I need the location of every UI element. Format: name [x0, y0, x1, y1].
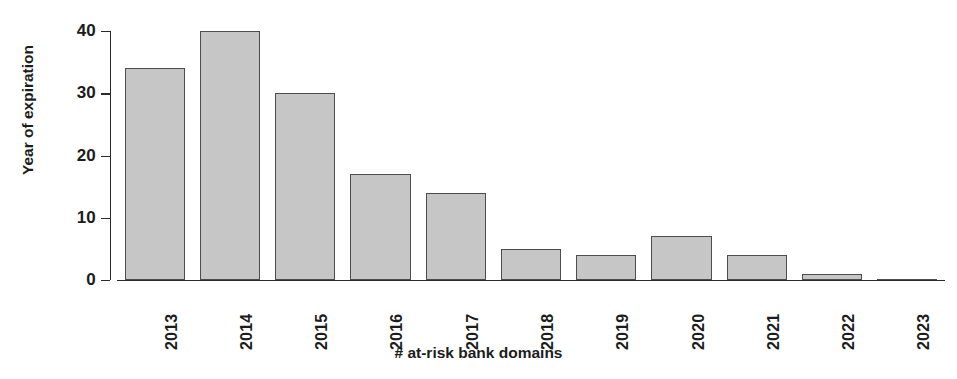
y-axis-tick	[101, 218, 110, 219]
y-axis-tick-label-wrap: 0	[52, 270, 96, 290]
bar	[651, 236, 711, 280]
x-axis-tick-label: 2014	[238, 280, 256, 350]
x-axis-tick-label: 2013	[163, 280, 181, 350]
bar	[727, 255, 787, 280]
x-axis-tick-label: 2015	[313, 280, 331, 350]
bar	[125, 68, 185, 280]
x-axis-tick-label: 2016	[388, 280, 406, 350]
bar	[877, 279, 937, 280]
x-axis-tick-label: 2022	[840, 280, 858, 350]
bar	[802, 274, 862, 280]
y-axis-title: Year of expiration	[19, 30, 37, 190]
y-axis-tick	[101, 93, 110, 94]
bar	[501, 249, 561, 280]
x-axis-title: # at-risk bank domains	[0, 344, 957, 362]
y-axis-tick-label: 0	[56, 270, 96, 290]
y-axis-tick-label: 40	[56, 21, 96, 41]
bar	[576, 255, 636, 280]
y-axis-tick-label: 10	[56, 208, 96, 228]
y-axis-tick-label-wrap: 30	[52, 83, 96, 103]
bar	[350, 174, 410, 280]
y-axis-tick-label: 20	[56, 146, 96, 166]
y-axis-tick	[101, 156, 110, 157]
x-axis-tick-label: 2023	[915, 280, 933, 350]
y-axis-tick	[101, 31, 110, 32]
bar	[426, 193, 486, 280]
bar	[200, 31, 260, 280]
y-axis-line	[110, 31, 111, 280]
y-axis-tick-label-wrap: 20	[52, 146, 96, 166]
x-axis-tick-label: 2021	[765, 280, 783, 350]
x-axis-tick-label: 2020	[690, 280, 708, 350]
x-axis-tick-label: 2018	[539, 280, 557, 350]
y-axis-tick-label-wrap: 40	[52, 21, 96, 41]
bar-chart-figure: 010203040 Year of expiration 20132014201…	[0, 0, 957, 379]
y-axis-tick	[101, 280, 110, 281]
x-axis-tick-label: 2019	[614, 280, 632, 350]
bar	[275, 93, 335, 280]
y-axis-tick-label: 30	[56, 83, 96, 103]
plot-area	[117, 31, 945, 280]
x-axis-tick-label: 2017	[464, 280, 482, 350]
y-axis-tick-label-wrap: 10	[52, 208, 96, 228]
